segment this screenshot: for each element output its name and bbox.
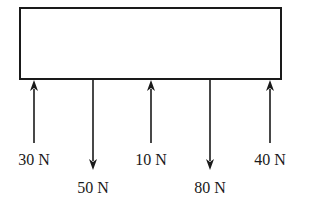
rigid-body-rectangle bbox=[20, 8, 281, 79]
force-label: 50 N bbox=[77, 179, 109, 196]
force-up-10: 10 N bbox=[135, 80, 167, 168]
force-up-30: 30 N bbox=[18, 80, 50, 168]
force-down-50: 50 N bbox=[77, 79, 109, 196]
force-label: 30 N bbox=[18, 151, 50, 168]
force-up-40: 40 N bbox=[254, 80, 286, 168]
force-down-80: 80 N bbox=[194, 79, 226, 196]
force-arrows: 30 N50 N10 N80 N40 N bbox=[18, 79, 286, 196]
force-label: 10 N bbox=[135, 151, 167, 168]
force-label: 80 N bbox=[194, 179, 226, 196]
force-label: 40 N bbox=[254, 151, 286, 168]
free-body-diagram: 30 N50 N10 N80 N40 N bbox=[0, 0, 309, 212]
